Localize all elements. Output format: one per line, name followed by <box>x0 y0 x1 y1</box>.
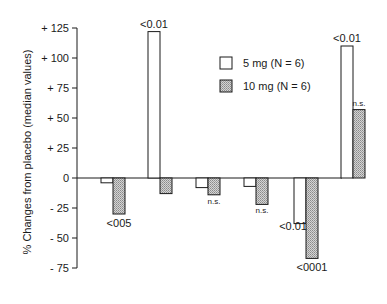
legend-label: 5 mg (N = 6) <box>243 57 304 69</box>
legend: 5 mg (N = 6)10 mg (N = 6) <box>220 57 311 92</box>
y-axis-title: % Changes from placebo (median values) <box>21 50 33 255</box>
bar-5mg <box>294 178 306 224</box>
significance-label: n.s. <box>353 99 366 108</box>
y-axis: + 125+ 100+ 75+ 50+ 250- 25- 50- 75 <box>41 22 77 274</box>
y-tick-label: 0 <box>63 172 69 184</box>
y-tick-label: + 50 <box>47 112 69 124</box>
y-axis-label: % Changes from placebo (median values) <box>21 50 33 255</box>
significance-label: <005 <box>107 217 132 229</box>
y-tick-label: + 75 <box>47 82 69 94</box>
bar-5mg <box>148 32 160 178</box>
bar-10mg <box>113 178 125 214</box>
bar-5mg <box>341 46 353 178</box>
bar-5mg <box>196 178 208 188</box>
significance-label: <0.01 <box>333 32 361 44</box>
significance-annotations: <005<0.01n.s.n.s.<0.01<0001<0.01n.s. <box>107 18 366 274</box>
significance-label: n.s. <box>256 206 269 215</box>
significance-label: <0001 <box>297 261 328 273</box>
legend-swatch-10mg <box>220 80 232 92</box>
y-tick-label: - 75 <box>50 262 69 274</box>
legend-label: 10 mg (N = 6) <box>243 80 311 92</box>
significance-label: <0.01 <box>140 18 168 30</box>
significance-label: n.s. <box>208 197 221 206</box>
y-tick-label: + 100 <box>41 52 69 64</box>
bar-5mg <box>101 178 113 183</box>
bar-10mg <box>160 178 172 194</box>
bar-10mg <box>353 110 365 178</box>
y-tick-label: + 125 <box>41 22 69 34</box>
bar-10mg <box>256 178 268 204</box>
y-tick-label: + 25 <box>47 142 69 154</box>
legend-swatch-5mg <box>220 57 232 69</box>
significance-label: <0.01 <box>279 220 307 232</box>
bar-10mg <box>208 178 220 195</box>
bar-10mg <box>306 178 318 258</box>
y-tick-label: - 50 <box>50 232 69 244</box>
bar-5mg <box>244 178 256 186</box>
bars <box>101 32 365 259</box>
y-tick-label: - 25 <box>50 202 69 214</box>
bar-chart: % Changes from placebo (median values) +… <box>0 0 387 304</box>
